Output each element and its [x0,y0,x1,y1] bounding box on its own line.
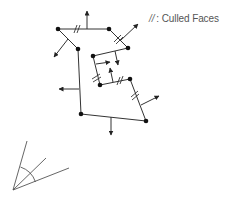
normal-arrow-f-g [110,68,113,82]
camera-frustum-icon [13,141,69,190]
edge-e-f [93,56,100,85]
normal-arrow-g-h [141,96,159,105]
edge-h-i [81,114,146,121]
normal-arrow-d-e [115,51,118,65]
vertex-h [144,119,149,124]
vertex-g [128,77,133,82]
normal-arrow-c-d [121,24,138,40]
frustum-fov-arc [21,167,36,182]
vertex-c [107,27,112,32]
vertex-a [56,27,61,32]
normal-arrow-e-f [96,62,110,64]
vertex-i [79,112,84,117]
edge-i-b [78,49,81,114]
frustum-lower-edge [13,168,69,190]
culling-diagram [0,0,229,203]
culled-legend-label: : Culled Faces [156,13,219,24]
vertex-d [126,46,131,51]
vertex-e [91,54,96,59]
edge-f-g [100,79,130,85]
edge-d-e [93,48,128,56]
legend: //: Culled Faces [149,13,219,24]
vertex-b [76,47,81,52]
culled-legend-symbol: // [149,13,154,24]
polygon-edges [58,29,146,121]
normal-arrow-b-a [54,39,68,57]
edge-c-d [109,29,128,48]
culled-mark-e-f [92,74,101,82]
vertex-f [98,83,103,88]
